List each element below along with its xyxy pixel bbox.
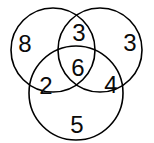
region-left-bottom-label: 2 xyxy=(39,74,52,98)
region-right-bottom-label: 4 xyxy=(104,73,117,97)
venn-diagram: 8 3 3 2 6 4 5 xyxy=(0,0,154,143)
region-bottom-only-label: 5 xyxy=(70,113,83,137)
region-center-all-label: 6 xyxy=(71,56,84,80)
region-top-overlap-label: 3 xyxy=(72,21,85,45)
region-left-only-label: 8 xyxy=(18,32,31,56)
region-right-only-label: 3 xyxy=(123,31,136,55)
